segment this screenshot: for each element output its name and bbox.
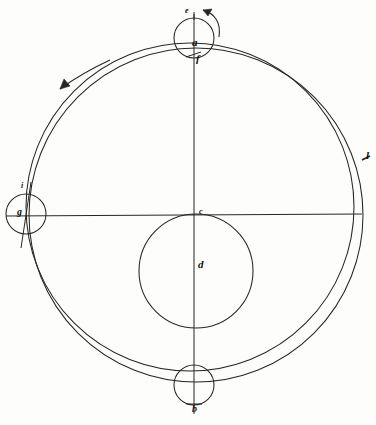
label-e: e (185, 7, 189, 15)
label-f: f (196, 53, 200, 64)
figure-canvas: e a f i g c d b l (0, 0, 376, 425)
label-d: d (198, 259, 204, 270)
label-i: i (21, 182, 23, 190)
label-b: b (192, 404, 197, 414)
label-a: a (192, 37, 198, 48)
label-c: c (199, 208, 203, 216)
label-l: l (366, 150, 369, 161)
rotation-arrow-top-circle (203, 9, 219, 37)
eccentric-circle (26, 43, 354, 371)
diagram-svg (0, 0, 376, 425)
direction-arrow-outer (60, 60, 110, 89)
label-g: g (17, 207, 22, 217)
central-circle-d (139, 214, 253, 328)
